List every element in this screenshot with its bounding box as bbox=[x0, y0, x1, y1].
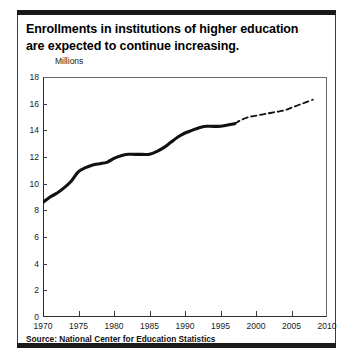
y-tick-label: 12 bbox=[19, 152, 39, 162]
x-tick-label: 1980 bbox=[105, 321, 124, 331]
x-tick-label: 1985 bbox=[140, 321, 159, 331]
y-tick-label: 8 bbox=[19, 205, 39, 215]
x-tick-label: 1975 bbox=[69, 321, 88, 331]
actual-series-line bbox=[43, 124, 235, 203]
figure-panel: Enrollments in institutions of higher ed… bbox=[17, 10, 336, 348]
data-series-layer bbox=[43, 77, 327, 317]
y-tick-label: 6 bbox=[19, 232, 39, 242]
y-tick-label: 16 bbox=[19, 99, 39, 109]
y-tick-label: 2 bbox=[19, 285, 39, 295]
x-tick-label: 1970 bbox=[34, 321, 53, 331]
x-tick-label: 2005 bbox=[282, 321, 301, 331]
y-tick-label: 4 bbox=[19, 259, 39, 269]
x-tick-label: 2010 bbox=[318, 321, 337, 331]
source-note: Source: National Center for Education St… bbox=[26, 334, 215, 344]
x-tick-label: 2000 bbox=[247, 321, 266, 331]
plot-wrapper: 024681012141618 197019751980198519901995… bbox=[17, 10, 336, 348]
projected-series-line bbox=[235, 100, 313, 124]
y-tick-label: 14 bbox=[19, 125, 39, 135]
x-tick-label: 1990 bbox=[176, 321, 195, 331]
x-tick-label: 1995 bbox=[211, 321, 230, 331]
y-tick-label: 18 bbox=[19, 72, 39, 82]
y-tick-label: 10 bbox=[19, 179, 39, 189]
